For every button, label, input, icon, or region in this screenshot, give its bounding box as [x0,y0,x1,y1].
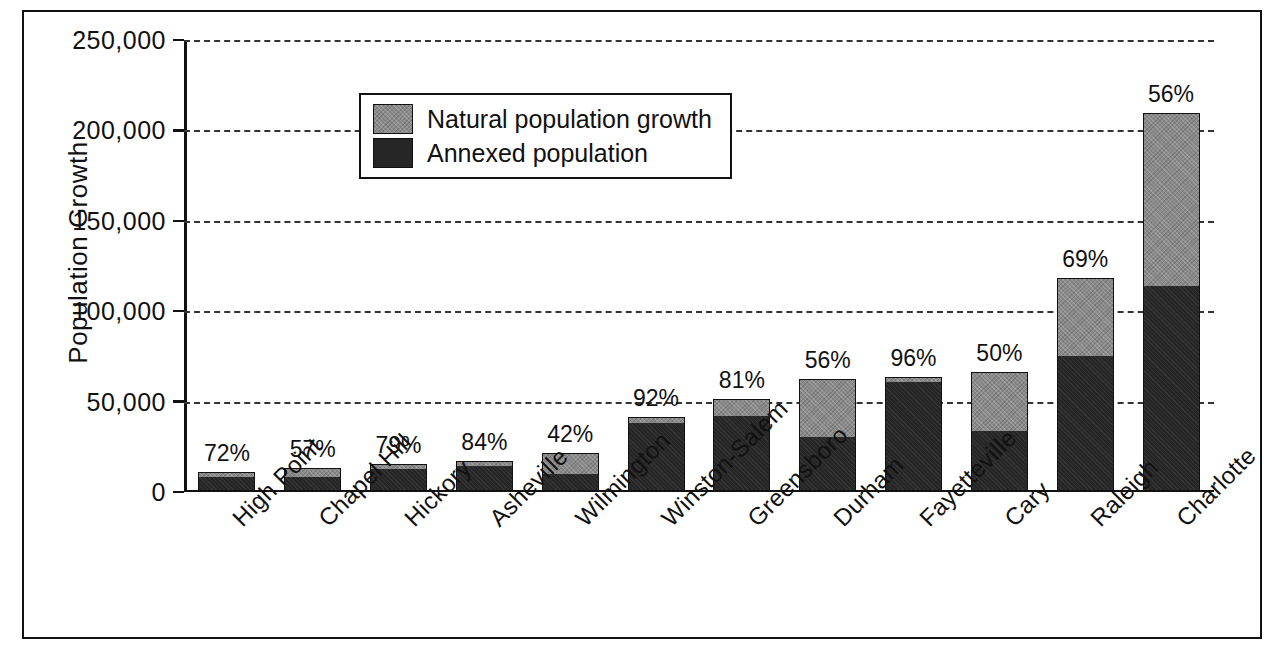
x-axis-tick-label: Chapel Hill [282,498,344,628]
x-axis-tick-label: Winston-Salem [625,498,687,628]
bar-group: 69% [1054,38,1116,490]
bar-percent-label: 92% [633,385,679,412]
bar-segment-annexed-population [1143,286,1200,489]
legend-swatch-natural [373,104,413,134]
y-axis-tick-label: 100,000 [72,297,166,326]
legend-label: Annexed population [427,139,648,168]
bar-segment-annexed-population [198,477,255,489]
bar-group: 96% [883,38,945,490]
y-axis-tick-label: 150,000 [72,206,166,235]
bar-group: 57% [282,38,344,490]
bar-stack: 56% [1143,113,1200,490]
y-axis-tick-label: 250,000 [72,26,166,55]
x-axis-tick-label: Cary [968,498,1030,628]
chart-figure: Population Growth 050,000100,000150,0002… [22,10,1262,639]
bar-stack: 69% [1057,278,1114,490]
bar-percent-label: 56% [805,347,851,374]
legend-label: Natural population growth [427,105,712,134]
bar-percent-label: 81% [719,367,765,394]
y-axis-title: Population Growth [58,12,98,492]
x-axis-tick-label: Wilmington [539,498,601,628]
bar-percent-label: 84% [461,429,507,456]
y-axis-tick-label: 0 [152,478,166,507]
x-axis-tick-label: Hickory [368,498,430,628]
x-axis-tick-labels: High PointChapel HillHickoryAshevilleWil… [184,498,1214,628]
legend-item: Natural population growth [373,104,712,134]
x-axis-tick-label: Charlotte [1140,498,1202,628]
bar-group: 56% [797,38,859,490]
bar-segment-annexed-population [1057,356,1114,490]
y-axis-tick [173,400,184,403]
y-axis-tick [173,310,184,313]
y-axis-tick [173,39,184,42]
x-axis-tick-label: Durham [797,498,859,628]
y-axis-tick [173,491,184,494]
y-axis-tick-label: 50,000 [87,387,166,416]
bar-percent-label: 72% [204,440,250,467]
bar-group: 72% [196,38,258,490]
y-axis-tick-label: 200,000 [72,116,166,145]
bar-segment-natural-population-growth [1057,278,1114,356]
x-axis-tick-label: Raleigh [1054,498,1116,628]
bar-group: 56% [1140,38,1202,490]
x-axis-tick-label: Asheville [453,498,515,628]
y-axis-title-label: Population Growth [63,141,94,363]
legend-swatch-annexed [373,138,413,168]
y-axis-tick [173,220,184,223]
bar-segment-natural-population-growth [971,372,1028,431]
y-axis-tick [173,129,184,132]
x-axis-tick-label: Greensboro [711,498,773,628]
bar-segment-natural-population-growth [1143,113,1200,287]
bar-percent-label: 69% [1062,246,1108,273]
bar-percent-label: 96% [891,345,937,372]
x-axis-tick-label: High Point [196,498,258,628]
bar-percent-label: 56% [1148,81,1194,108]
x-axis-tick-label: Fayetteville [883,498,945,628]
legend-item: Annexed population [373,138,712,168]
bar-percent-label: 50% [976,340,1022,367]
legend: Natural population growthAnnexed populat… [359,93,732,179]
bar-stack: 72% [198,472,255,489]
bar-group: 50% [968,38,1030,490]
